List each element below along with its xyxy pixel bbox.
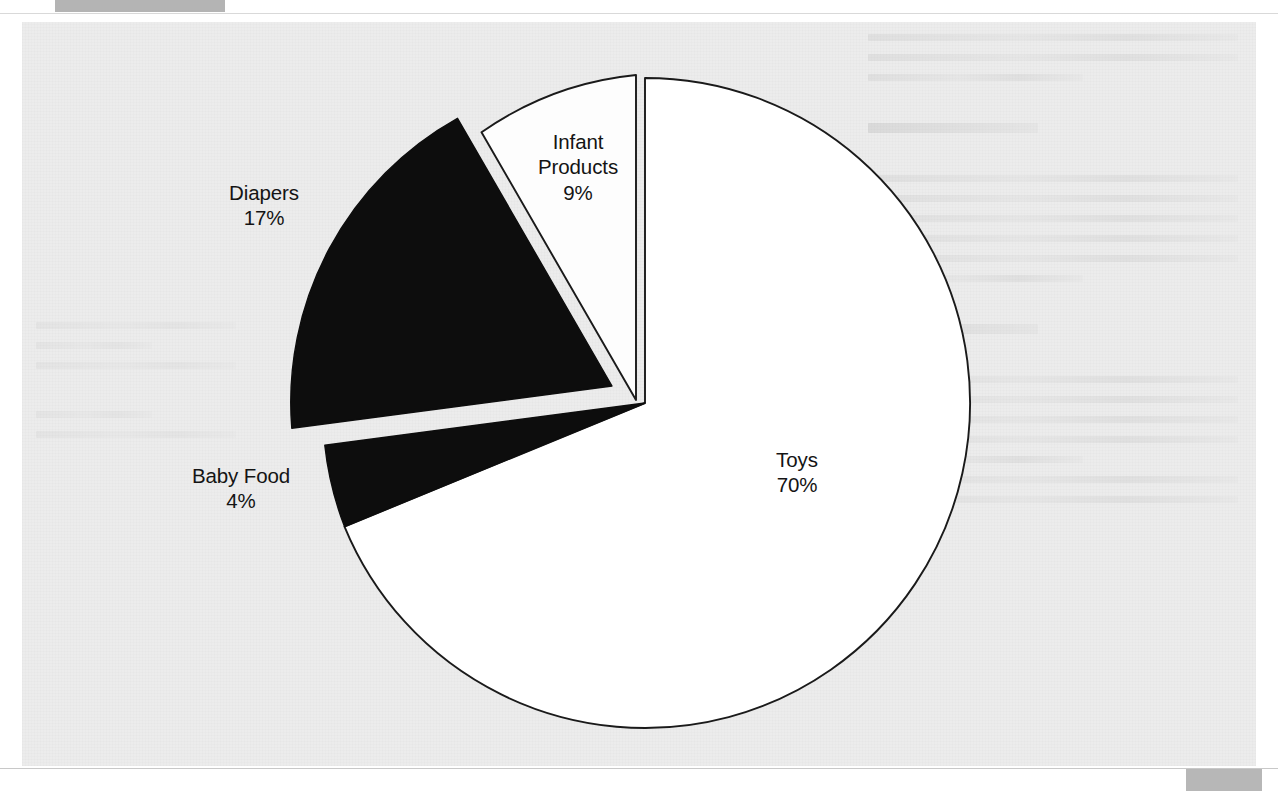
pie-label-infant-products-name-line1: Infant [493, 129, 663, 154]
scanned-page: Diapers 17% Infant Products 9% Toys 70% … [0, 0, 1278, 795]
pie-label-toys-value: 70% [712, 472, 882, 497]
pie-label-infant-products-value: 9% [493, 180, 663, 205]
page-bottom-rule [0, 768, 1278, 769]
pie-label-diapers: Diapers 17% [179, 180, 349, 231]
pie-label-diapers-value: 17% [179, 205, 349, 230]
chart-panel: Diapers 17% Infant Products 9% Toys 70% … [22, 22, 1256, 766]
page-top-marker-bar [55, 0, 225, 12]
pie-label-toys: Toys 70% [712, 447, 882, 498]
pie-label-baby-food: Baby Food 4% [146, 463, 336, 514]
pie-label-diapers-name: Diapers [179, 180, 349, 205]
pie-label-infant-products-name-line2: Products [493, 154, 663, 179]
pie-label-infant-products: Infant Products 9% [493, 129, 663, 205]
page-bottom-marker-bar [1186, 769, 1262, 791]
pie-label-baby-food-value: 4% [146, 488, 336, 513]
pie-label-toys-name: Toys [712, 447, 882, 472]
pie-label-baby-food-name: Baby Food [146, 463, 336, 488]
page-top-rule [0, 13, 1278, 14]
